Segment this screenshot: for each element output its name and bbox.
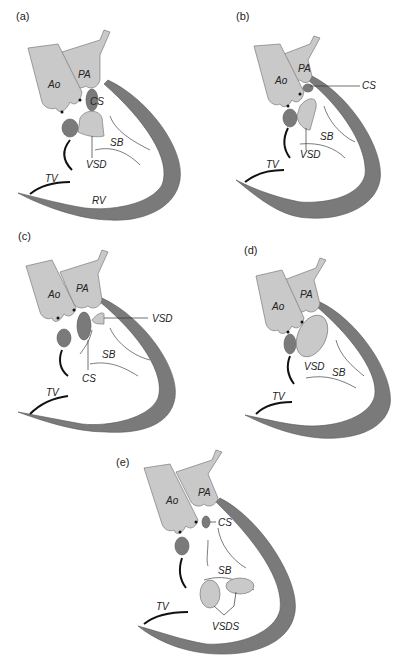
pa-label: PA <box>198 487 211 498</box>
conal-septum <box>202 516 210 528</box>
septal-leaflet <box>284 334 296 354</box>
conal-septum <box>77 312 91 340</box>
vsd <box>92 313 104 324</box>
vsd-1 <box>200 580 220 608</box>
tv-label: TV <box>266 159 280 170</box>
pa-label: PA <box>76 283 89 294</box>
panel-label: (b) <box>236 10 249 22</box>
septal-leaflet <box>57 329 71 347</box>
panel-label: (a) <box>16 10 29 22</box>
septal-leaflet <box>283 109 297 127</box>
conal-septum <box>303 84 313 92</box>
sb-label: SB <box>320 131 334 142</box>
tv-label: TV <box>45 173 59 184</box>
pa-label: PA <box>300 289 313 300</box>
sb-label: SB <box>102 349 116 360</box>
ao-label: Ao <box>165 495 179 506</box>
vsd <box>78 111 104 137</box>
vsd-label: VSD <box>152 313 173 324</box>
tricuspid-chord <box>64 140 72 170</box>
vsds-label: VSDS <box>212 621 240 632</box>
ao-label: Ao <box>274 75 288 86</box>
vsd-label: VSD <box>300 149 321 160</box>
panel-label: (d) <box>244 244 257 256</box>
vsd-label: VSD <box>304 361 325 372</box>
cs-label: CS <box>90 96 104 107</box>
tv-label: TV <box>272 391 286 402</box>
panel-b: (b) CS PA Ao SB VSD TV <box>200 0 404 220</box>
tv-label: TV <box>156 601 170 612</box>
sb-label: SB <box>110 137 124 148</box>
panel-c: (c) VSD PA Ao SB CS TV <box>0 220 200 440</box>
pa-label: PA <box>78 69 91 80</box>
septal-leaflet <box>62 119 78 137</box>
sb-label: SB <box>332 367 346 378</box>
cs-label: CS <box>362 80 376 91</box>
vsd <box>297 99 316 130</box>
ao-label: Ao <box>47 289 61 300</box>
rv-label: RV <box>92 195 107 206</box>
cs-label: CS <box>82 373 96 384</box>
cs-label: CS <box>218 517 232 528</box>
panel-label: (c) <box>18 230 31 242</box>
ao-label: Ao <box>271 301 285 312</box>
vsd-2 <box>226 578 254 594</box>
pa-label: PA <box>298 63 311 74</box>
panel-d: (d) VSD PA Ao SB TV <box>200 220 404 440</box>
vsd-label: VSD <box>86 159 107 170</box>
sb-label: SB <box>218 565 232 576</box>
panel-a: (a) CS PA Ao SB VSD TV RV <box>0 0 200 220</box>
ventricular-wall <box>236 76 380 218</box>
septal-leaflet <box>175 537 189 555</box>
tv-label: TV <box>46 387 60 398</box>
panel-label: (e) <box>116 456 129 468</box>
ao-label: Ao <box>47 79 61 90</box>
panel-e: (e) CS PA Ao SB VSDS TV <box>100 440 320 664</box>
